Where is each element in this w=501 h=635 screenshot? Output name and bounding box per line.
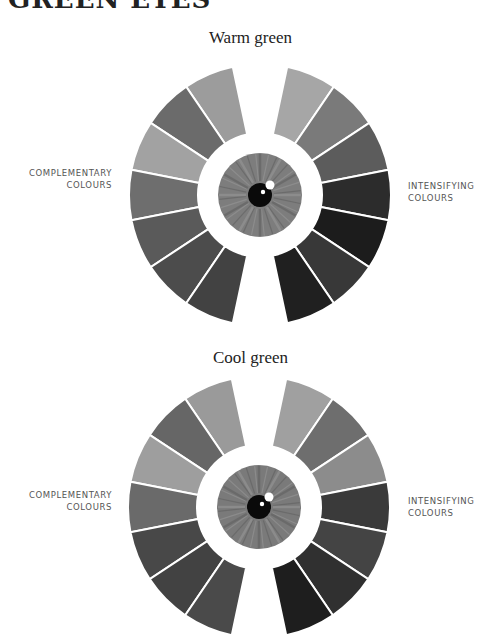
color-wheel-cool-green xyxy=(0,0,501,635)
eye-cool-green-icon xyxy=(217,465,301,549)
